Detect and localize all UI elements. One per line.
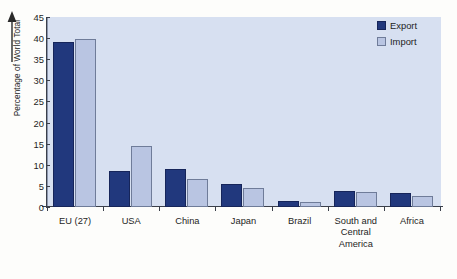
bar-import [187, 179, 208, 207]
bar-group [47, 17, 103, 207]
bar-export [165, 169, 186, 207]
bar-import [75, 39, 96, 207]
bar-export [221, 184, 242, 207]
bar-group [103, 17, 159, 207]
legend-item-export: Export [377, 20, 449, 31]
bar-import [356, 192, 377, 207]
x-tick-mark [384, 207, 385, 211]
y-tick-label: 30 [18, 75, 44, 86]
x-tick-mark [103, 207, 104, 211]
export-swatch-icon [377, 21, 386, 30]
y-tick-label: 35 [18, 54, 44, 65]
x-tick-mark [159, 207, 160, 211]
bar-import [412, 196, 433, 207]
y-tick-label: 0 [18, 202, 44, 213]
bar-export [278, 201, 299, 207]
bar-group [159, 17, 215, 207]
legend-label-export: Export [390, 20, 417, 31]
bar-export [390, 193, 411, 207]
y-tick-label: 40 [18, 33, 44, 44]
y-tick-label: 10 [18, 159, 44, 170]
legend-item-import: Import [377, 36, 449, 47]
x-tick-mark [440, 207, 441, 211]
y-tick-label: 5 [18, 180, 44, 191]
y-tick-label: 15 [18, 138, 44, 149]
bar-import [131, 146, 152, 207]
x-tick-mark [47, 207, 48, 211]
bar-chart-figure: Percentage of World Total 45403530252015… [0, 0, 457, 279]
y-axis-ticks: 454035302520151050 [14, 0, 44, 279]
import-swatch-icon [377, 37, 386, 46]
x-tick-mark [328, 207, 329, 211]
bar-group [272, 17, 328, 207]
y-tick-label: 45 [18, 12, 44, 23]
y-tick-label: 20 [18, 117, 44, 128]
bar-export [53, 42, 74, 207]
bar-export [334, 191, 355, 207]
bar-import [300, 202, 321, 207]
y-tick-label: 25 [18, 96, 44, 107]
bar-import [243, 188, 264, 207]
bar-group [328, 17, 384, 207]
bar-group [215, 17, 271, 207]
bar-export [109, 171, 130, 207]
x-tick-mark [272, 207, 273, 211]
x-tick-mark [215, 207, 216, 211]
legend-label-import: Import [390, 36, 417, 47]
x-axis-label: Africa [372, 216, 452, 227]
chart-legend: Export Import [377, 20, 449, 52]
